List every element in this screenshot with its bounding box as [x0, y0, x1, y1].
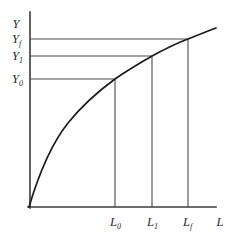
x-tick-l1-sub: 1 [154, 222, 158, 231]
x-tick-lf-base: L [182, 215, 190, 229]
x-tick-l1: L1 [146, 215, 158, 231]
y-axis-name: Y [13, 17, 22, 31]
x-tick-lf: Lf [182, 215, 194, 231]
production-function-figure: Y Yf Y1 Y0 L0 L1 Lf L [0, 0, 235, 239]
chart-canvas: Y Yf Y1 Y0 L0 L1 Lf L [0, 0, 235, 239]
y-tick-yf-sub: f [19, 39, 23, 48]
x-tick-lf-sub: f [190, 222, 194, 231]
y-tick-y1-sub: 1 [19, 56, 23, 65]
x-axis-name: L [216, 215, 224, 229]
y-tick-yf: Yf [12, 32, 23, 48]
y-tick-y0-sub: 0 [19, 79, 23, 88]
y-tick-y0: Y0 [12, 72, 23, 88]
x-tick-l1-base: L [146, 215, 154, 229]
x-tick-l0: L0 [109, 215, 121, 231]
x-tick-l0-sub: 0 [117, 222, 121, 231]
x-tick-l0-base: L [109, 215, 117, 229]
y-tick-y1: Y1 [12, 49, 23, 65]
